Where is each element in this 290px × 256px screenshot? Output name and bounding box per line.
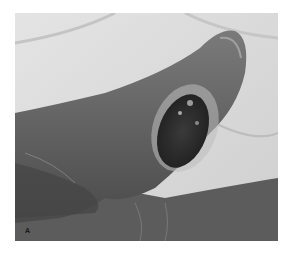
panel-label: A (25, 227, 30, 234)
thumb-lesion-image (15, 13, 278, 241)
clinical-photo: A (15, 13, 278, 241)
